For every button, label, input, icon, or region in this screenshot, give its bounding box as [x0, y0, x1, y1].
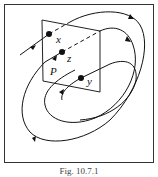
- arrow-icon: [128, 14, 134, 19]
- point-z: [59, 49, 65, 55]
- point-x: [46, 31, 52, 37]
- label-x: x: [55, 33, 61, 45]
- label-y: y: [86, 75, 92, 87]
- label-p: P: [49, 65, 57, 77]
- arrow-icon: [32, 136, 36, 142]
- point-y: [78, 75, 84, 81]
- poincare-map-diagram: x z P y: [0, 0, 158, 177]
- label-z: z: [66, 52, 72, 64]
- figure-frame: [5, 5, 154, 163]
- inner-trajectory: [62, 61, 136, 120]
- arrow-icon: [59, 89, 64, 95]
- figure-caption: Fig. 10.7.1: [0, 166, 158, 176]
